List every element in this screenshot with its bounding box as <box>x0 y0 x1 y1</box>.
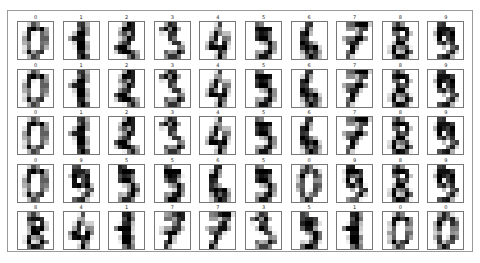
digit-label: 2 <box>108 110 145 115</box>
digit-label: 3 <box>154 63 191 68</box>
digit-image <box>291 116 328 155</box>
digit-label: 5 <box>245 110 282 115</box>
digit-image <box>199 116 236 155</box>
digit-label: 8 <box>382 158 419 163</box>
digit-label: 5 <box>108 158 145 163</box>
digit-label: 9 <box>63 158 100 163</box>
digit-image <box>17 164 54 203</box>
digit-image <box>291 21 328 60</box>
digit-label: 9 <box>427 110 464 115</box>
digit-image <box>63 164 100 203</box>
digit-image <box>154 211 191 250</box>
digit-label: 5 <box>291 205 328 210</box>
digit-label: 9 <box>427 15 464 20</box>
digit-label: 5 <box>245 15 282 20</box>
digit-label: 9 <box>427 158 464 163</box>
digit-label: 3 <box>245 205 282 210</box>
digit-label: 1 <box>108 205 145 210</box>
digit-image <box>108 211 145 250</box>
digit-label: 7 <box>336 110 373 115</box>
digit-image <box>154 21 191 60</box>
digit-label: 4 <box>199 15 236 20</box>
digit-label: 5 <box>245 63 282 68</box>
digit-image <box>427 21 464 60</box>
digit-label: 7 <box>199 205 236 210</box>
digit-label: 8 <box>17 205 54 210</box>
digit-image <box>427 69 464 108</box>
digit-image <box>336 69 373 108</box>
digit-label: 9 <box>427 63 464 68</box>
digit-image <box>17 211 54 250</box>
digit-label: 1 <box>336 205 373 210</box>
digit-label: 6 <box>291 63 328 68</box>
digit-image <box>427 116 464 155</box>
digit-image <box>199 21 236 60</box>
digit-image <box>382 211 419 250</box>
digit-label: 9 <box>336 158 373 163</box>
digit-image <box>63 21 100 60</box>
digit-label: 4 <box>63 205 100 210</box>
digit-label: 4 <box>199 110 236 115</box>
digit-label: 1 <box>63 15 100 20</box>
digit-image <box>199 69 236 108</box>
digit-label: 4 <box>199 63 236 68</box>
digit-image <box>336 164 373 203</box>
digit-image <box>245 21 282 60</box>
digit-label: 0 <box>17 110 54 115</box>
digit-label: 0 <box>17 63 54 68</box>
digit-label: 6 <box>199 158 236 163</box>
digit-image <box>17 116 54 155</box>
digit-image <box>245 116 282 155</box>
digit-label: 8 <box>382 110 419 115</box>
digit-image <box>245 211 282 250</box>
digit-label: 7 <box>336 63 373 68</box>
digit-label: 3 <box>154 110 191 115</box>
digit-image <box>427 211 464 250</box>
digit-image <box>63 116 100 155</box>
digit-image <box>382 69 419 108</box>
digit-image <box>382 116 419 155</box>
digit-image <box>427 164 464 203</box>
digit-image <box>154 69 191 108</box>
digit-image <box>291 69 328 108</box>
digit-image <box>291 211 328 250</box>
digit-label: 7 <box>336 15 373 20</box>
digit-label: 1 <box>63 110 100 115</box>
digit-image <box>199 164 236 203</box>
digit-image <box>382 164 419 203</box>
digit-image <box>382 21 419 60</box>
digit-label: 0 <box>17 158 54 163</box>
digit-image <box>17 69 54 108</box>
digit-image <box>63 69 100 108</box>
digit-image <box>108 164 145 203</box>
digit-label: 0 <box>427 205 464 210</box>
digit-label: 6 <box>291 15 328 20</box>
digit-label: 0 <box>291 158 328 163</box>
digit-image <box>154 164 191 203</box>
digit-image <box>291 164 328 203</box>
digit-label: 7 <box>154 205 191 210</box>
digit-image <box>17 21 54 60</box>
digit-label: 8 <box>382 63 419 68</box>
digit-image <box>154 116 191 155</box>
digit-label: 2 <box>108 15 145 20</box>
digit-image <box>336 116 373 155</box>
digit-image <box>199 211 236 250</box>
digit-label: 0 <box>382 205 419 210</box>
digit-image <box>108 21 145 60</box>
digit-label: 1 <box>63 63 100 68</box>
digit-label: 5 <box>245 158 282 163</box>
digit-image <box>336 211 373 250</box>
digit-image <box>108 116 145 155</box>
digit-image <box>63 211 100 250</box>
digit-label: 2 <box>108 63 145 68</box>
digit-label: 0 <box>17 15 54 20</box>
digit-label: 5 <box>154 158 191 163</box>
digit-image <box>245 69 282 108</box>
digit-image <box>336 21 373 60</box>
digit-image <box>108 69 145 108</box>
digit-label: 3 <box>154 15 191 20</box>
digit-label: 8 <box>382 15 419 20</box>
digit-image <box>245 164 282 203</box>
digit-label: 6 <box>291 110 328 115</box>
